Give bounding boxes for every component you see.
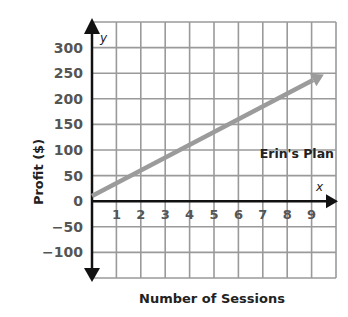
y-axis-arrow-down-icon: [84, 268, 100, 282]
y-tick-label: 100: [54, 142, 83, 158]
y-axis-arrow-up-icon: [84, 18, 100, 34]
y-tick-label: −100: [42, 244, 83, 260]
y-axis-variable: y: [99, 31, 108, 45]
y-tick-label: 50: [64, 168, 84, 184]
x-tick-label: 7: [258, 207, 267, 222]
x-tick-label: 6: [234, 207, 243, 222]
y-tick-label: 150: [54, 116, 83, 132]
series-line: [92, 80, 313, 196]
y-tick-label: 200: [54, 91, 83, 107]
x-tick-label: 1: [112, 207, 121, 222]
x-axis-title: Number of Sessions: [139, 291, 285, 306]
y-tick-label: 250: [54, 65, 83, 81]
y-tick-label: −50: [52, 219, 83, 235]
x-tick-label: 4: [185, 207, 194, 222]
y-axis-title: Profit ($): [31, 139, 46, 205]
series-label: Erin's Plan: [260, 146, 334, 161]
x-tick-label: 9: [307, 207, 316, 222]
y-tick-label: 0: [73, 193, 83, 209]
x-tick-label: 8: [283, 207, 292, 222]
chart: 123456789300250200150100500−50−100 y x E…: [0, 0, 348, 317]
y-tick-label: 300: [54, 40, 83, 56]
series-erins-plan: [92, 74, 324, 196]
x-tick-label: 3: [161, 207, 170, 222]
x-axis-variable: x: [315, 180, 324, 194]
x-tick-label: 5: [209, 207, 218, 222]
x-tick-label: 2: [136, 207, 145, 222]
